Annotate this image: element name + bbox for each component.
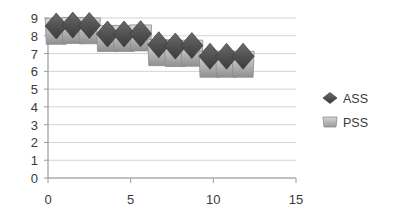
legend-square-icon [323, 117, 337, 127]
chart-legend: ASSPSS [323, 92, 368, 130]
y-axis-label: 5 [31, 82, 38, 97]
chart-canvas: 9876543210 051015 ASSPSS [0, 0, 396, 214]
y-axis-label: 2 [31, 135, 38, 150]
x-axis-label: 10 [206, 192, 220, 207]
y-axis-label: 6 [31, 64, 38, 79]
legend-label: ASS [343, 92, 368, 106]
x-axis-label: 5 [127, 192, 134, 207]
chart-container: 9876543210 051015 ASSPSS [0, 0, 396, 214]
y-axis-label: 7 [31, 47, 38, 62]
x-axis-label: 15 [289, 192, 303, 207]
y-axis-label: 3 [31, 118, 38, 133]
legend-label: PSS [343, 116, 368, 130]
x-axis-labels: 051015 [44, 192, 303, 207]
legend-diamond-icon [323, 93, 337, 104]
y-axis-label: 8 [31, 29, 38, 44]
y-axis-label: 4 [31, 100, 38, 115]
y-axis-label: 1 [31, 153, 38, 168]
y-axis-labels: 9876543210 [31, 11, 38, 186]
x-tick-marks [48, 178, 296, 183]
y-axis-label: 0 [31, 171, 38, 186]
y-axis-label: 9 [31, 11, 38, 26]
x-axis-label: 0 [44, 192, 51, 207]
